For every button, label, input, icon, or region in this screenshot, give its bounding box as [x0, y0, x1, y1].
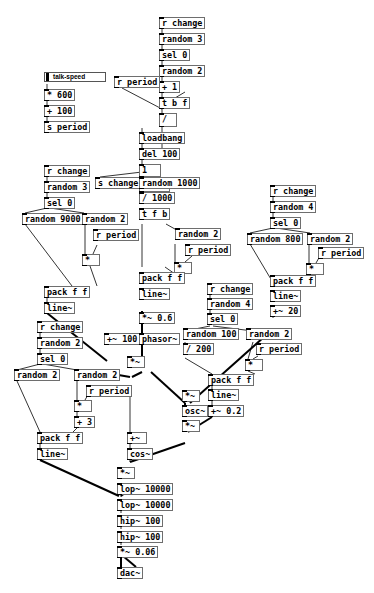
object-random[interactable]: random 2: [307, 233, 353, 245]
object-random[interactable]: random 2: [175, 228, 221, 240]
object-osc[interactable]: osc~: [182, 405, 208, 417]
object-plus[interactable]: + 100: [44, 105, 75, 117]
object-random[interactable]: random 2: [37, 337, 83, 349]
object-s-change[interactable]: s change: [95, 177, 141, 189]
object-random[interactable]: random 2: [246, 328, 292, 340]
object-plus[interactable]: + 1: [159, 81, 180, 93]
object-multiply-signal[interactable]: *~: [127, 356, 145, 368]
object-sel[interactable]: sel 0: [37, 353, 68, 365]
object-random[interactable]: random 2: [82, 213, 128, 225]
object-random[interactable]: random 9000: [22, 213, 83, 225]
object-delay[interactable]: del 100: [139, 148, 180, 160]
slider-knob[interactable]: [46, 73, 49, 81]
object-highpass[interactable]: hip~ 100: [117, 531, 163, 543]
object-r-period[interactable]: r period: [318, 247, 364, 259]
object-add-signal[interactable]: +~ 100: [104, 333, 140, 345]
slider-label: talk-speed: [53, 72, 85, 82]
object-loadbang[interactable]: loadbang: [139, 132, 185, 144]
message-1[interactable]: 1: [139, 164, 161, 177]
object-sel[interactable]: sel 0: [270, 217, 301, 229]
object-random[interactable]: random 4: [207, 298, 253, 310]
object-pack[interactable]: pack f f: [44, 286, 90, 298]
object-multiply-signal[interactable]: *~ 0.6: [139, 312, 175, 324]
object-cos[interactable]: cos~: [127, 448, 153, 460]
object-line[interactable]: line~: [270, 290, 301, 302]
object-line[interactable]: line~: [44, 302, 75, 314]
talk-speed-slider[interactable]: talk-speed: [44, 72, 106, 82]
object-add-signal[interactable]: +~: [127, 432, 147, 444]
object-pack[interactable]: pack f f: [139, 272, 185, 284]
object-highpass[interactable]: hip~ 100: [117, 515, 163, 527]
object-random[interactable]: random 4: [270, 201, 316, 213]
object-divide[interactable]: /: [159, 113, 177, 127]
object-random[interactable]: random 1000: [139, 177, 200, 189]
object-line[interactable]: line~: [208, 389, 239, 401]
object-pack[interactable]: pack f f: [270, 275, 316, 287]
object-line[interactable]: line~: [139, 288, 170, 300]
object-random[interactable]: random 2: [14, 369, 60, 381]
object-s-period[interactable]: s period: [44, 121, 90, 133]
object-divide[interactable]: / 200: [183, 343, 214, 355]
object-phasor[interactable]: phasor~: [139, 333, 180, 345]
object-multiply-signal[interactable]: *~: [117, 467, 135, 479]
object-multiply-signal[interactable]: *~: [182, 420, 200, 432]
object-sel[interactable]: sel 0: [159, 49, 190, 61]
object-r-period[interactable]: r period: [93, 229, 139, 241]
object-r-period[interactable]: r period: [114, 76, 160, 88]
object-random[interactable]: random 3: [159, 33, 205, 45]
object-random[interactable]: random 2: [159, 65, 205, 77]
object-random[interactable]: random 800: [247, 233, 303, 245]
object-pack[interactable]: pack f f: [37, 432, 83, 444]
object-r-change[interactable]: r change: [37, 321, 83, 333]
object-multiply[interactable]: *: [74, 400, 92, 412]
object-dac[interactable]: dac~: [117, 567, 143, 579]
object-trigger[interactable]: t f b: [139, 208, 170, 220]
object-line[interactable]: line~: [37, 448, 68, 460]
object-multiply[interactable]: *: [245, 359, 263, 371]
object-r-change[interactable]: r change: [270, 185, 316, 197]
object-trigger[interactable]: t b f: [159, 97, 190, 109]
object-lowpass[interactable]: lop~ 10000: [117, 499, 173, 511]
object-r-period[interactable]: r period: [185, 244, 231, 256]
object-divide[interactable]: / 1000: [139, 192, 175, 204]
object-multiply[interactable]: * 600: [44, 89, 75, 101]
object-random[interactable]: random 2: [74, 369, 120, 381]
object-multiply[interactable]: *: [306, 263, 324, 275]
object-multiply-signal[interactable]: *~ 0.06: [117, 546, 158, 558]
object-r-change[interactable]: r change: [159, 17, 205, 29]
object-r-change[interactable]: r change: [44, 165, 90, 177]
object-add-signal[interactable]: +~ 20: [270, 305, 301, 317]
object-multiply[interactable]: *: [82, 254, 100, 266]
object-plus[interactable]: + 3: [74, 416, 95, 428]
object-random[interactable]: random 3: [44, 181, 90, 193]
object-multiply-signal[interactable]: *~: [182, 390, 200, 402]
object-r-change[interactable]: r change: [207, 283, 253, 295]
object-sel[interactable]: sel 0: [207, 313, 238, 325]
object-random[interactable]: random 100: [183, 328, 239, 340]
object-lowpass[interactable]: lop~ 10000: [117, 483, 173, 495]
object-pack[interactable]: pack f f: [208, 374, 254, 386]
pd-patch-canvas[interactable]: talk-speed r change random 3 sel 0 rando…: [0, 0, 374, 593]
object-r-period[interactable]: r period: [256, 343, 302, 355]
object-sel[interactable]: sel 0: [44, 197, 75, 209]
object-add-signal[interactable]: +~ 0.2: [208, 405, 244, 417]
object-r-period[interactable]: r period: [86, 385, 132, 397]
